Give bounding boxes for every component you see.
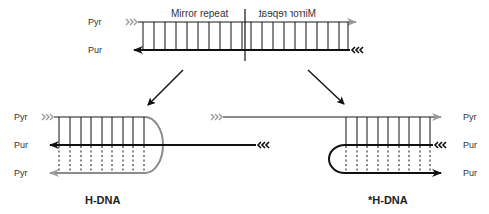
star-h-dna-five-prime-chevron-icon xyxy=(211,114,222,120)
star-h-dna-watson-crick-rungs xyxy=(346,117,430,145)
top-pyr-label: Pyr xyxy=(88,17,102,27)
h-dna-structure: Pyr Pur Pyr xyxy=(14,112,269,206)
h-dna-title: H-DNA xyxy=(85,194,120,206)
star-h-dna-pur-label-1: Pur xyxy=(463,140,477,150)
mirror-repeat-label-left: Mirror repeat xyxy=(171,8,228,19)
mirror-repeat-label-right: Mirror repeat xyxy=(259,8,316,19)
five-prime-chevron-icon xyxy=(126,19,137,25)
top-duplex: Pyr Pur Mirror repeat Mirror repeat xyxy=(88,8,363,61)
h-dna-watson-crick-rungs xyxy=(59,117,144,145)
h-dna-pyr-label-2: Pyr xyxy=(14,168,28,178)
triplex-dna-diagram: Pyr Pur Mirror repeat Mirror repeat xyxy=(0,0,489,214)
h-dna-pyr-label-1: Pyr xyxy=(14,112,28,122)
star-h-dna-pur-label-2: Pur xyxy=(463,168,477,178)
h-dna-hoogsteen-rungs xyxy=(59,146,144,173)
top-pur-label: Pur xyxy=(88,45,102,55)
three-prime-chevron-icon xyxy=(352,47,363,53)
arrow-to-star-h-dna-icon xyxy=(308,70,344,104)
h-dna-pur-label: Pur xyxy=(14,140,28,150)
star-h-dna-structure: Pyr Pur Pur *H-DNA xyxy=(211,112,477,206)
arrow-to-h-dna-icon xyxy=(148,70,183,105)
star-h-dna-three-prime-chevron-icon xyxy=(435,142,446,148)
star-h-dna-hoogsteen-rungs xyxy=(346,146,430,173)
h-dna-three-prime-chevron-icon xyxy=(258,142,269,148)
h-dna-five-prime-chevron-icon xyxy=(42,114,53,120)
star-h-dna-title: *H-DNA xyxy=(368,194,408,206)
star-h-dna-pyr-label: Pyr xyxy=(463,112,477,122)
